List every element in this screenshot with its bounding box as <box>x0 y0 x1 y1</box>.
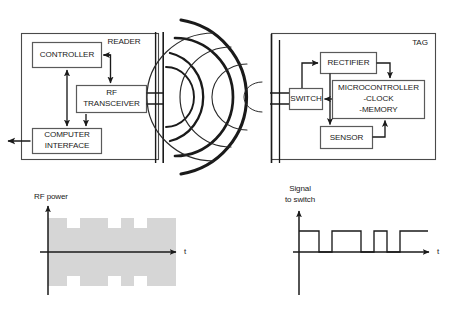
tag-radio-waves <box>147 33 262 161</box>
diagram-canvas <box>0 0 454 313</box>
rf-to-controller-arrow <box>104 55 111 83</box>
rf-power-x-axis-label: t <box>184 248 186 257</box>
rectifier-to-microcontroller-arrow <box>377 63 391 78</box>
rf-transceiver-label-line2: TRANSCEIVER <box>83 100 139 109</box>
switch-label: SWITCH <box>290 95 321 104</box>
switch-signal-x-axis-label: t <box>437 248 439 257</box>
sensor-label: SENSOR <box>330 133 364 142</box>
microcontroller-label-line1: MICROCONTROLLER <box>338 84 419 93</box>
switch-to-rectifier-arrow <box>302 63 318 88</box>
switch-signal-y-axis-label-line1: Signal <box>289 185 311 194</box>
microcontroller-label-line2: -CLOCK <box>364 95 394 104</box>
controller-label: CONTROLLER <box>40 51 94 60</box>
rfid-system-diagram: READER CONTROLLER RF TRANSCEIVER COMPUTE… <box>0 0 454 313</box>
sensor-to-microcontroller-arrow <box>373 121 386 138</box>
computer-interface-label-line1: COMPUTER <box>44 131 90 140</box>
rf-power-y-axis-label: RF power <box>34 193 68 202</box>
rf-transceiver-label-line1: RF <box>106 89 117 98</box>
microcontroller-label-line3: -MEMORY <box>359 106 397 115</box>
tag-title: TAG <box>412 39 428 48</box>
reader-title: READER <box>107 38 140 47</box>
switch-signal-trace <box>299 231 428 252</box>
rectifier-label: RECTIFIER <box>328 59 370 68</box>
computer-interface-label-line2: INTERFACE <box>45 142 90 151</box>
switch-signal-y-axis-label-line2: to switch <box>285 196 315 205</box>
